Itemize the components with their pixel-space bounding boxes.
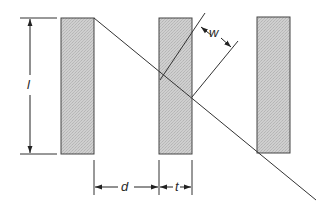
slat-1	[61, 18, 94, 154]
label-spacing: d	[120, 180, 129, 193]
label-length: l	[26, 78, 31, 91]
diagram-graphic	[0, 0, 328, 208]
louver-diagram: l w d t	[0, 0, 328, 208]
label-thickness: t	[174, 180, 180, 193]
label-width: w	[208, 26, 219, 39]
slats	[61, 17, 290, 154]
w-arrow-2	[221, 38, 231, 47]
slat-2	[159, 18, 192, 154]
slat-3	[257, 17, 290, 153]
width-line-lower	[192, 41, 238, 97]
